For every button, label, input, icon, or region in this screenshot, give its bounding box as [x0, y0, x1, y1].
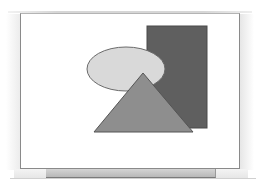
bottom-rule-line: [10, 178, 256, 179]
shapes-canvas: [0, 0, 262, 184]
bottom-scroll-bar[interactable]: [46, 169, 216, 178]
diagram-stage: [0, 0, 262, 184]
